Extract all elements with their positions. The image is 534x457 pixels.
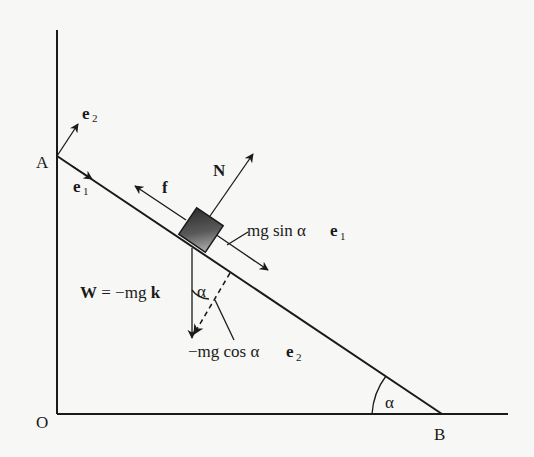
svg-text:−mg cos α: −mg cos α xyxy=(188,342,259,361)
incline-angle-arc xyxy=(372,376,386,414)
inclined-plane-diagram: A O B e 2 e 1 f N mg sin α e 1 W = −mg k… xyxy=(0,0,534,457)
friction-arrow xyxy=(135,186,186,220)
point-a-label: A xyxy=(36,153,49,172)
point-o-label: O xyxy=(36,413,48,432)
point-b-label: B xyxy=(434,425,445,444)
svg-text:e: e xyxy=(286,342,294,361)
svg-text:2: 2 xyxy=(296,351,302,363)
parallel-component-leader xyxy=(227,232,248,245)
block xyxy=(179,208,223,252)
svg-text:e: e xyxy=(73,177,81,196)
svg-text:e: e xyxy=(82,104,90,123)
svg-text:e: e xyxy=(330,221,338,240)
e2-label: e 2 xyxy=(82,104,98,124)
svg-text:mg sin α: mg sin α xyxy=(247,221,306,240)
friction-label: f xyxy=(162,178,168,197)
svg-text:W = −mg k: W = −mg k xyxy=(80,283,161,302)
svg-text:1: 1 xyxy=(83,185,89,197)
weight-angle-label: α xyxy=(197,282,206,301)
normal-force-label: N xyxy=(213,161,226,180)
e1-label: e 1 xyxy=(73,177,89,197)
svg-text:1: 1 xyxy=(340,230,346,242)
weight-label: W = −mg k xyxy=(80,283,161,302)
perpendicular-component-label: −mg cos α e 2 xyxy=(188,342,302,363)
perpendicular-component-leader xyxy=(215,300,234,340)
svg-text:2: 2 xyxy=(92,112,98,124)
incline-angle-label: α xyxy=(385,393,394,412)
parallel-component-label: mg sin α e 1 xyxy=(247,221,346,242)
e2-arrow xyxy=(57,124,78,156)
